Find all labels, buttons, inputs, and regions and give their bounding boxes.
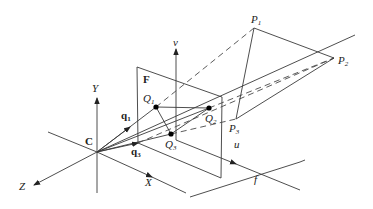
label-F: F — [143, 73, 150, 85]
label-Z: Z — [19, 180, 26, 192]
point-Q3 — [168, 131, 173, 136]
point-Q2 — [206, 105, 211, 110]
u-axis-ext — [236, 164, 300, 190]
label-v: v — [173, 36, 178, 48]
label-q1: q1 — [121, 109, 131, 123]
label-Y: Y — [92, 82, 100, 94]
label-u: u — [234, 138, 240, 150]
label-P2: P2 — [337, 54, 349, 68]
label-P3: P3 — [228, 122, 240, 136]
optical-ray — [97, 35, 355, 152]
label-Q2: Q2 — [205, 112, 217, 126]
label-Q1: Q1 — [143, 92, 154, 106]
x-axis — [97, 152, 152, 177]
label-X: X — [144, 176, 153, 188]
x-axis-ext — [152, 177, 186, 193]
world-axes — [34, 98, 186, 193]
label-C: C — [85, 135, 93, 147]
label-q3: q3 — [131, 145, 141, 159]
ray-Q2-to-P2 — [209, 58, 334, 108]
label-P1: P1 — [250, 13, 261, 27]
ray-Q3-to-P3 — [171, 119, 236, 134]
camera-projection-diagram: C F Y X Z v u f q1 q3 Q1 Q2 Q3 P1 P2 P3 — [0, 0, 373, 209]
z-axis — [34, 152, 97, 185]
label-Q3: Q3 — [165, 138, 177, 152]
label-f: f — [254, 173, 259, 185]
triangle-P — [236, 28, 334, 119]
ray-Q1-to-P1 — [156, 28, 254, 107]
u-axis — [176, 140, 236, 164]
focal-tick-right — [300, 160, 305, 162]
ray-to-Q2 — [97, 108, 209, 152]
